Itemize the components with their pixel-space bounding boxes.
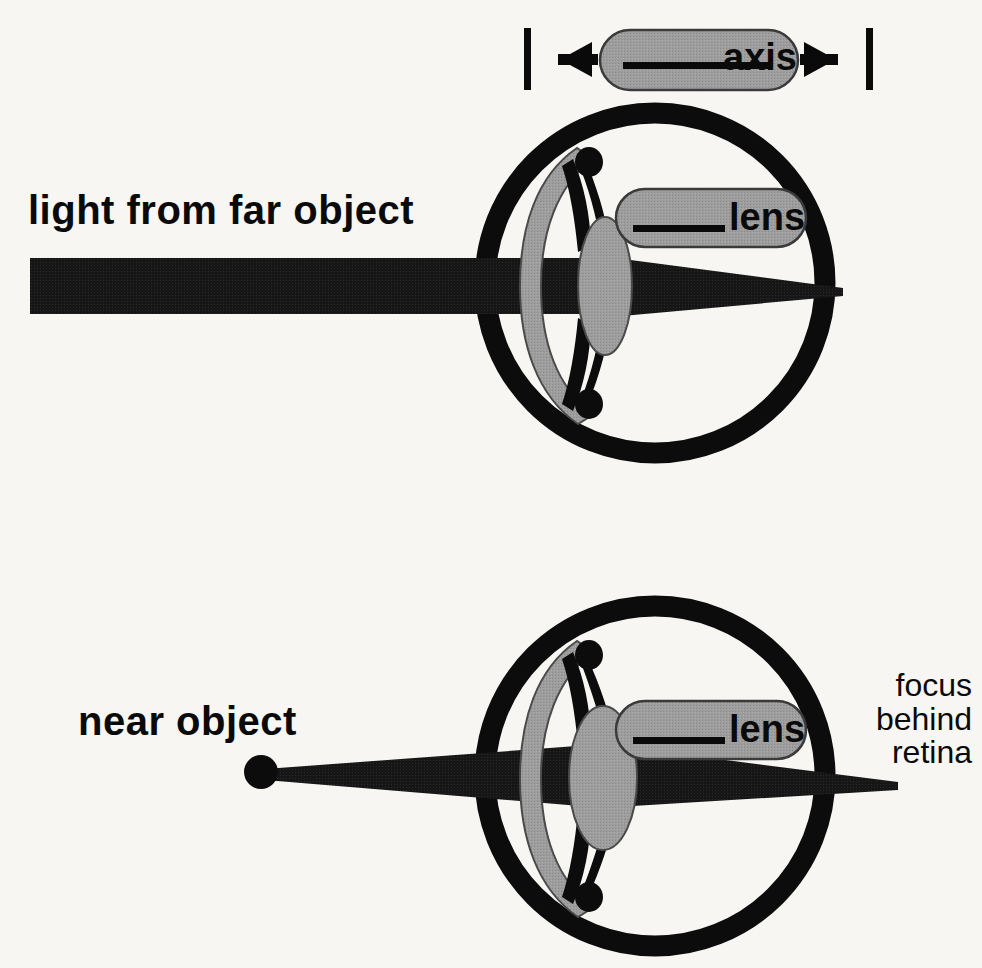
callout-label-lens-bottom: lens [729,708,805,751]
label-focus-behind-retina: focus behind retina [852,669,972,770]
lens-leader-line-top [633,225,725,232]
ciliary-knob-upper-top [575,147,603,177]
ciliary-knob-upper-bottom [575,640,603,670]
callout-label-axis: axis [723,36,797,79]
ciliary-knob-lower-bottom [575,882,603,912]
beam-converging-segment [600,256,843,318]
light-beam-top [30,256,843,318]
label-near-object: near object [78,700,297,742]
axis-left-arrow-icon [558,42,598,77]
point-source-object [244,755,278,789]
lens-leader-line-bottom [633,737,725,744]
ciliary-knob-lower-top [575,389,603,419]
axis-callout-group [524,28,873,90]
axis-right-bracket [866,28,873,90]
callout-label-lens-top: lens [729,196,805,239]
label-light-from-far-object: light from far object [28,189,414,231]
eye-accommodation-figure: light from far object near object focus … [0,0,982,968]
beam-diverging-segment [265,744,604,808]
diagram-canvas [0,0,982,968]
axis-right-arrow-icon [800,42,838,77]
axis-left-bracket [524,28,531,90]
